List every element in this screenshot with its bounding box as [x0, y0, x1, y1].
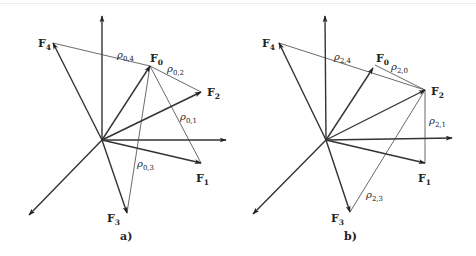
- vector-label: F2: [207, 86, 220, 101]
- distance-label: ρ0,2: [166, 63, 184, 77]
- distance-label: ρ2,4: [333, 51, 352, 65]
- z-axis-arrow: [253, 140, 326, 214]
- vector-label: F1: [196, 172, 209, 187]
- force-vector-F1: [102, 140, 201, 163]
- force-vector-F1: [326, 140, 425, 163]
- distance-line-rho-0-1: [150, 66, 201, 163]
- distance-label: ρ0,4: [116, 49, 135, 63]
- force-vector-F4: [53, 43, 102, 140]
- force-vector-diagram: ρ0,4ρ0,2ρ0,1ρ0,3F0F1F2F3F4a)ρ2,4ρ2,0ρ2,1…: [0, 0, 476, 256]
- panel-caption: b): [344, 230, 357, 243]
- distance-label: ρ0,1: [179, 111, 197, 125]
- distance-label: ρ2,3: [365, 189, 383, 203]
- force-vector-F3: [102, 140, 127, 213]
- vector-label: F1: [418, 172, 431, 187]
- force-vector-F2: [326, 90, 425, 140]
- panel-caption: a): [120, 230, 132, 243]
- vector-label: F0: [376, 52, 389, 67]
- vector-label: F3: [107, 212, 120, 227]
- z-axis-arrow: [29, 140, 102, 215]
- panel-b: ρ2,4ρ2,0ρ2,1ρ2,3F0F1F2F3F4b): [253, 16, 452, 243]
- vector-label: F3: [331, 212, 344, 227]
- panel-a: ρ0,4ρ0,2ρ0,1ρ0,3F0F1F2F3F4a): [29, 16, 226, 243]
- x-axis-arrow: [326, 138, 452, 140]
- distance-label: ρ2,1: [428, 115, 446, 129]
- vector-label: F0: [150, 52, 163, 67]
- force-vector-F3: [326, 140, 350, 212]
- vector-label: F2: [431, 85, 444, 100]
- vector-label: F4: [262, 37, 275, 52]
- distance-label: ρ0,3: [136, 158, 154, 172]
- vector-label: F4: [38, 37, 51, 52]
- force-vector-F0: [326, 68, 373, 140]
- y-axis-arrow: [325, 16, 326, 140]
- force-vector-F4: [279, 43, 326, 140]
- distance-label: ρ2,0: [390, 61, 408, 75]
